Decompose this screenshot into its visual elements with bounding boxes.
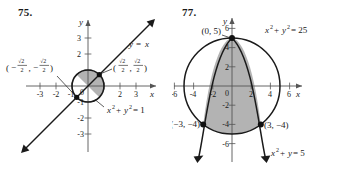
circle-label-x-77: x bbox=[264, 25, 269, 35]
circle-label-plus-75: + bbox=[116, 105, 121, 115]
circle-label-77: x 2 + y 2 = 25 bbox=[264, 24, 308, 35]
circle-label-ysup-77: 2 bbox=[287, 24, 290, 30]
y-tick-label-77-5: -6 bbox=[222, 140, 229, 149]
frac-den-75-lower-1: 2 bbox=[21, 67, 24, 73]
frac-den-75-upper-2: 2 bbox=[137, 67, 140, 73]
circle-label-xsup-77: 2 bbox=[270, 24, 273, 30]
circle-label-75: x 2 + y 2 = 1 bbox=[106, 104, 145, 115]
y-tick-label-75-1: 2 bbox=[77, 50, 81, 59]
figure-panel-77: 77. bbox=[172, 0, 343, 175]
x-tick-label-75-0: -3 bbox=[37, 90, 44, 99]
x-axis-arrow-75 bbox=[150, 83, 156, 88]
comma-75-lower: , bbox=[29, 63, 31, 73]
x-axis-label-77: x bbox=[295, 89, 300, 99]
parabola-label-eq-77: = 5 bbox=[293, 148, 305, 158]
paren-close-75-upper: ) bbox=[144, 63, 147, 73]
sign-75-lower-2: − bbox=[33, 62, 38, 72]
graph-77: -6 -4 -2 2 4 6 6 4 2 -2 -4 -6 0 x y bbox=[172, 0, 343, 175]
x-tick-label-75-1: -2 bbox=[53, 90, 60, 99]
origin-label-77: 0 bbox=[225, 89, 229, 98]
point-label-77-right: (3, −4) bbox=[264, 120, 289, 130]
y-axis-arrow-75 bbox=[85, 20, 90, 26]
parabola-label-y-77: y bbox=[287, 148, 292, 158]
y-axis-label-77: y bbox=[222, 16, 227, 26]
paren-close-75-lower: ) bbox=[50, 63, 53, 73]
circle-label-eq-77: = 25 bbox=[291, 25, 308, 35]
x-tick-label-77-0: -6 bbox=[172, 90, 177, 99]
parabola-arrow-left-77 bbox=[194, 156, 204, 163]
x-axis-arrow-77 bbox=[296, 83, 302, 88]
frac-den-75-upper-1: 2 bbox=[122, 67, 125, 73]
x-tick-label-77-1: -4 bbox=[190, 90, 197, 99]
frac-den-75-lower-2: 2 bbox=[43, 67, 46, 73]
point-label-77-left: (−3, −4) bbox=[172, 119, 200, 129]
frac-num-75-upper-2: √2 bbox=[134, 58, 140, 64]
y-axis-arrow-77 bbox=[229, 18, 234, 24]
circle-label-plus-77: + bbox=[274, 25, 279, 35]
circle-label-xsup-75: 2 bbox=[112, 104, 115, 110]
x-tick-label-77-5: 6 bbox=[287, 90, 291, 99]
paren-open-75-upper: ( bbox=[113, 63, 116, 73]
graph-75: -3 -2 -1 2 3 3 2 -1 -2 -3 0 x y bbox=[0, 0, 171, 175]
sign-75-lower-1: − bbox=[11, 62, 16, 72]
y-tick-label-77-3: -2 bbox=[222, 101, 229, 110]
leader-line-75-circle bbox=[95, 100, 104, 107]
leader-line-77-vertex bbox=[222, 35, 229, 37]
y-tick-label-75-0: 3 bbox=[77, 34, 81, 43]
x-tick-label-77-4: 4 bbox=[268, 90, 272, 99]
figure-page: 75. bbox=[0, 0, 343, 175]
circle-label-y-75: y bbox=[123, 105, 128, 115]
circle-label-y-77: y bbox=[281, 25, 286, 35]
parabola-label-77: x 2 + y = 5 bbox=[270, 147, 305, 158]
line-label-75: y = x bbox=[128, 39, 149, 49]
x-tick-label-75-3: 2 bbox=[118, 90, 122, 99]
line-label-eq-75: = bbox=[136, 39, 141, 49]
parabola-label-plus-77: + bbox=[280, 148, 285, 158]
line-label-lhs-75: y bbox=[128, 39, 133, 49]
point-label-75-lower: ( − √2 2 , − √2 2 ) bbox=[6, 58, 53, 73]
point-dot-77-vertex bbox=[229, 35, 235, 41]
circle-label-x-75: x bbox=[106, 105, 111, 115]
x-tick-label-77-3: 2 bbox=[249, 90, 253, 99]
y-tick-label-75-5: -3 bbox=[77, 130, 84, 139]
point-label-75-upper: ( √2 2 , √2 2 ) bbox=[113, 58, 147, 73]
circle-label-ysup-75: 2 bbox=[129, 104, 132, 110]
figure-panel-75: 75. bbox=[0, 0, 171, 175]
parabola-label-x-77: x bbox=[270, 148, 275, 158]
comma-75-upper: , bbox=[130, 63, 132, 73]
point-label-77-vertex: (0, 5) bbox=[202, 26, 222, 36]
point-dot-77-left bbox=[200, 121, 206, 127]
point-dot-77-right bbox=[258, 121, 264, 127]
circle-label-eq-75: = 1 bbox=[133, 105, 145, 115]
y-tick-label-75-4: -2 bbox=[77, 114, 84, 123]
y-tick-label-77-2: 2 bbox=[225, 63, 229, 72]
parabola-label-xsup-77: 2 bbox=[276, 147, 279, 153]
line-label-rhs-75: x bbox=[144, 39, 149, 49]
frac-num-75-upper-1: √2 bbox=[119, 58, 125, 64]
y-tick-label-77-4: -4 bbox=[222, 120, 229, 129]
x-axis-label-75: x bbox=[149, 89, 154, 99]
frac-num-75-lower-1: √2 bbox=[18, 58, 24, 64]
y-axis-label-75: y bbox=[78, 17, 83, 27]
parabola-arrow-right-77 bbox=[261, 156, 271, 163]
x-tick-label-75-4: 3 bbox=[134, 90, 138, 99]
paren-open-75-lower: ( bbox=[6, 63, 9, 73]
frac-num-75-lower-2: √2 bbox=[40, 58, 46, 64]
point-dot-75-upper bbox=[97, 72, 102, 77]
